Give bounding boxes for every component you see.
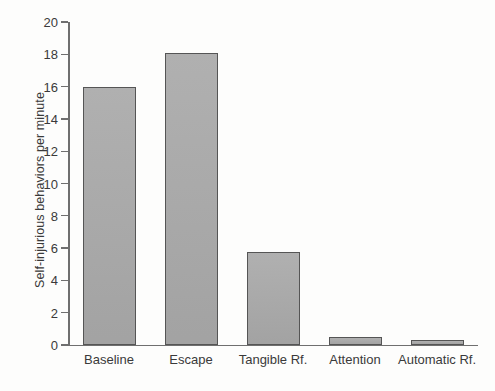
y-axis-tick-mark — [61, 151, 68, 152]
y-axis-tick-mark — [61, 21, 68, 22]
y-axis-tick-mark — [61, 54, 68, 55]
bar — [83, 87, 136, 345]
y-axis-tick-label: 8 — [12, 208, 58, 223]
x-axis-category-label: Baseline — [84, 352, 134, 367]
y-axis-tick-mark — [61, 280, 68, 281]
y-axis-tick-label: 16 — [12, 79, 58, 94]
y-axis-tick-label: 10 — [12, 176, 58, 191]
x-axis-category-label: Tangible Rf. — [239, 352, 308, 367]
x-axis-category-label: Automatic Rf. — [398, 352, 476, 367]
bar — [411, 340, 464, 345]
x-axis-category-label: Attention — [329, 352, 380, 367]
y-axis-tick-label: 14 — [12, 111, 58, 126]
bar-chart-figure: Self-injurious behaviors per minute 0246… — [0, 0, 495, 391]
bar — [165, 53, 218, 345]
y-axis-tick-mark — [61, 118, 68, 119]
y-axis-tick-label: 18 — [12, 47, 58, 62]
x-axis-category-label: Escape — [169, 352, 212, 367]
y-axis-tick-mark — [61, 86, 68, 87]
y-axis-tick-label: 20 — [12, 15, 58, 30]
y-axis-tick-label: 12 — [12, 144, 58, 159]
y-axis-tick-mark — [61, 247, 68, 248]
y-axis-tick-mark — [61, 215, 68, 216]
y-axis-line — [68, 22, 70, 346]
bar — [247, 252, 300, 345]
y-axis-tick-mark — [61, 312, 68, 313]
y-axis-tick-label: 4 — [12, 273, 58, 288]
y-axis-tick-group: 02468101214161820 — [0, 0, 58, 391]
y-axis-tick-label: 2 — [12, 305, 58, 320]
y-axis-tick-mark — [61, 344, 68, 345]
y-axis-tick-mark — [61, 183, 68, 184]
y-axis-tick-label: 0 — [12, 338, 58, 353]
bar — [329, 337, 382, 345]
y-axis-tick-label: 6 — [12, 241, 58, 256]
